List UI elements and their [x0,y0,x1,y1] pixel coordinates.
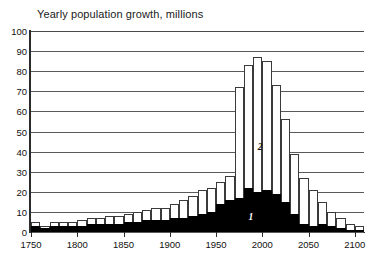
bar-segment-series-1 [40,228,49,232]
y-tick-label-10: 10 [3,208,27,217]
bar-segment-series-1 [68,226,77,232]
bar-segment-series-1 [96,224,105,232]
bar-segment-series-1 [105,224,114,232]
table-row [346,224,355,232]
gridline-30 [31,172,364,173]
y-tick-label-50: 50 [3,128,27,137]
chart-title: Yearly population growth, millions [37,8,203,20]
gridline-60 [31,111,364,112]
series-1-annotation: 1 [248,212,253,222]
x-tick-mark-2050 [309,232,310,237]
y-tick-label-30: 30 [3,168,27,177]
bar-segment-series-1 [253,192,262,232]
table-row [309,190,318,232]
bar-segment-series-1 [133,222,142,232]
y-tick-label-0: 0 [3,228,27,237]
x-tick-mark-2100 [355,232,356,237]
table-row [124,214,133,232]
x-tick-mark-2000 [262,232,263,237]
x-tick-label-1750: 1750 [20,239,41,250]
table-row [207,188,216,232]
table-row [216,182,225,232]
bar-segment-series-1 [59,226,68,232]
x-tick-mark-1800 [77,232,78,237]
y-tick-label-40: 40 [3,148,27,157]
bar-segment-series-1 [142,220,151,232]
bar-segment-series-1 [225,200,234,232]
bar-segment-series-1 [262,190,271,232]
y-tick-label-70: 70 [3,87,27,96]
bar-segment-series-1 [198,214,207,232]
table-row [87,218,96,232]
chart-container: Yearly population growth, millions 10090… [0,0,372,267]
table-row [31,222,40,232]
x-tick-mark-1950 [216,232,217,237]
table-row [151,208,160,232]
x-tick-mark-1850 [124,232,125,237]
gridline-50 [31,132,364,133]
x-tick-label-1900: 1900 [159,239,180,250]
table-row [281,119,290,232]
table-row [188,196,197,232]
table-row [262,61,271,232]
y-tick-label-90: 90 [3,47,27,56]
table-row [290,154,299,232]
bar-segment-series-1 [87,224,96,232]
table-row [40,226,49,232]
bar-segment-series-1 [336,228,345,232]
bar-segment-series-1 [124,222,133,232]
x-tick-label-1850: 1850 [113,239,134,250]
bar-segment-series-1 [114,224,123,232]
x-tick-label-2100: 2100 [344,239,365,250]
gridline-100 [31,31,364,32]
y-tick-label-20: 20 [3,188,27,197]
bar-segment-series-1 [31,226,40,232]
table-row [77,220,86,232]
bar-segment-series-1 [244,188,253,232]
bar-segment-series-1 [151,220,160,232]
table-row [179,200,188,232]
gridline-0 [31,232,364,233]
table-row [336,218,345,232]
bar-segment-series-1 [346,230,355,232]
gridline-40 [31,152,364,153]
table-row [355,226,364,232]
table-row [170,204,179,232]
plot-area: 1 2 [31,31,364,232]
y-axis-labels: 1009080706050403020100 [0,0,27,267]
table-row [272,85,281,232]
bar-segment-series-1 [170,218,179,232]
bar-segment-series-1 [235,198,244,232]
table-row [114,216,123,232]
table-row [96,218,105,232]
bar-segment-series-1 [327,226,336,232]
x-tick-mark-1900 [170,232,171,237]
x-tick-label-2000: 2000 [252,239,273,250]
bar-segment-series-1 [216,204,225,232]
table-row [235,87,244,232]
gridline-70 [31,91,364,92]
y-tick-label-100: 100 [3,27,27,36]
table-row [68,222,77,232]
table-row [299,178,308,232]
y-tick-label-60: 60 [3,107,27,116]
x-tick-mark-1750 [31,232,32,237]
x-tick-label-1950: 1950 [205,239,226,250]
gridline-90 [31,51,364,52]
table-row [198,190,207,232]
gridline-80 [31,71,364,72]
bar-segment-series-1 [290,214,299,232]
bar-segment-series-1 [50,226,59,232]
bar-segment-series-1 [161,220,170,232]
table-row [327,212,336,232]
bar-segment-series-1 [272,194,281,232]
series-2-annotation: 2 [258,142,263,152]
y-tick-label-80: 80 [3,67,27,76]
bar-segment-series-1 [207,212,216,232]
x-tick-label-1800: 1800 [67,239,88,250]
table-row [142,210,151,232]
bar-segment-series-1 [179,218,188,232]
bar-segment-series-1 [188,216,197,232]
bar-segment-series-1 [77,226,86,232]
bar-segment-series-1 [299,224,308,232]
